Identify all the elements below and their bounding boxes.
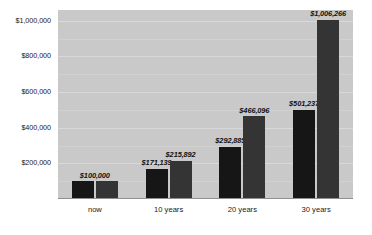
bar	[219, 147, 241, 199]
y-axis-tick-label: $1,000,000	[16, 17, 51, 24]
bar	[146, 169, 168, 200]
bar-value-label: $501,237	[289, 100, 319, 107]
x-axis-tick-label: now	[88, 206, 102, 214]
bar	[72, 181, 94, 199]
bar	[317, 20, 339, 199]
bar-chart: $200,000$400,000$600,000$800,000$1,000,0…	[0, 0, 372, 235]
bar-value-label: $292,885	[215, 137, 245, 144]
bar-value-label: $466,096	[239, 107, 269, 114]
axis-baseline	[58, 198, 353, 199]
bar	[96, 181, 118, 199]
x-axis-tick-label: 30 years	[302, 206, 331, 214]
bar	[243, 116, 265, 199]
y-axis-tick-label: $800,000	[21, 53, 51, 60]
bar	[170, 161, 192, 199]
x-axis: now10 years20 years30 years	[58, 203, 353, 223]
bar-value-label: $100,000	[80, 172, 110, 179]
x-axis-tick-label: 10 years	[154, 206, 183, 214]
y-axis-tick-label: $400,000	[21, 124, 51, 131]
x-axis-tick-label: 20 years	[228, 206, 257, 214]
y-axis-tick-label: $600,000	[21, 88, 51, 95]
plot-area: $100,000$171,139$215,892$292,885$466,096…	[58, 10, 353, 199]
y-axis-tick-label: $200,000	[21, 160, 51, 167]
bar-value-label: $1,006,266	[310, 10, 346, 17]
bar-value-label: $215,892	[166, 151, 196, 158]
bar	[293, 110, 315, 199]
bars-layer: $100,000$171,139$215,892$292,885$466,096…	[58, 10, 353, 199]
bar-value-label: $171,139	[142, 159, 172, 166]
y-axis: $200,000$400,000$600,000$800,000$1,000,0…	[0, 0, 55, 235]
